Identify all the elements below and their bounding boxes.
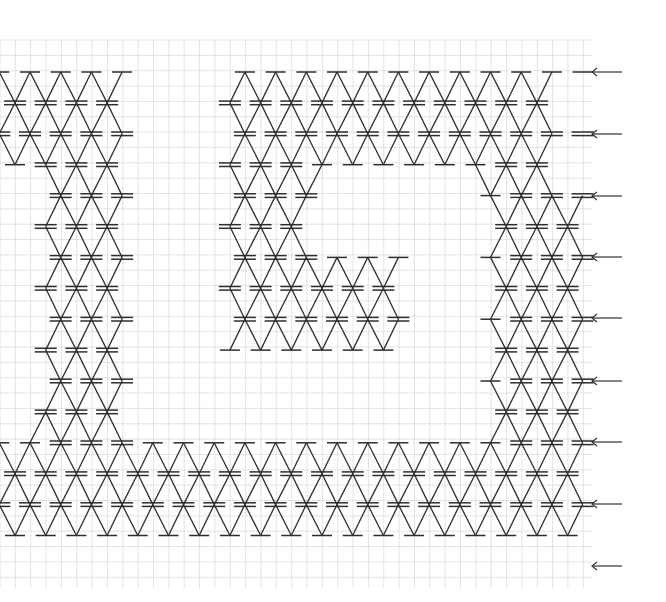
row-arrow-left-icon (592, 68, 622, 76)
row-arrow-left-icon (592, 377, 622, 385)
stitch-nodes (0, 72, 594, 536)
row-arrow-left-icon (592, 562, 622, 570)
double-stitch-node (111, 194, 133, 198)
row-arrows (592, 68, 622, 570)
row-arrow-left-icon (592, 438, 622, 446)
double-stitch-node (111, 317, 133, 321)
double-stitch-node (111, 132, 133, 136)
double-stitch-node (0, 503, 10, 507)
row-arrow-left-icon (592, 253, 622, 261)
row-arrow-left-icon (592, 130, 622, 138)
double-stitch-node (0, 132, 10, 136)
crochet-chart (0, 0, 666, 602)
double-stitch-node (572, 132, 594, 136)
row-arrow-left-icon (592, 500, 622, 508)
row-arrow-left-icon (592, 192, 622, 200)
row-arrow-left-icon (592, 314, 622, 322)
double-stitch-node (111, 379, 133, 383)
